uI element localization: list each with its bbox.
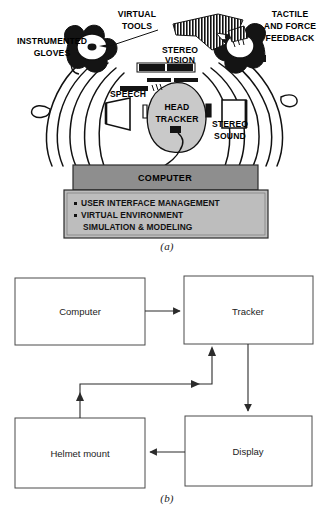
- panel-a-svg: COMPUTER USER INTERFACE MANAGEMENT VIRTU…: [0, 0, 334, 258]
- panel-a-caption: (a): [0, 240, 334, 252]
- block-helmet-mount[interactable]: Helmet mount: [15, 418, 145, 488]
- callout-line-stereo: STEREO: [162, 45, 198, 55]
- functions-item-2: SIMULATION & MODELING: [83, 222, 192, 232]
- callout-virtual-tools: VIRTUAL TOOLS: [118, 9, 156, 31]
- functions-item-label-0: USER INTERFACE MANAGEMENT: [81, 198, 221, 208]
- callout-line-vision: VISION: [165, 55, 195, 65]
- block-computer-label: Computer: [59, 306, 101, 317]
- edge-arrowhead-helmet-mount: [76, 392, 84, 401]
- figure-root: COMPUTER USER INTERFACE MANAGEMENT VIRTU…: [0, 0, 334, 515]
- callout-line-tracker: TRACKER: [155, 114, 199, 124]
- block-display[interactable]: Display: [185, 416, 312, 486]
- edge-arrowhead-tracker-bottom: [208, 346, 216, 356]
- callout-tactile-and-force-feedback: TACTILE AND FORCE FEEDBACK: [264, 9, 317, 43]
- callout-line-head: HEAD: [165, 102, 190, 112]
- functions-item-1: VIRTUAL ENVIRONMENT: [74, 210, 184, 220]
- callout-line-stereo-2: STEREO: [212, 119, 248, 129]
- callout-line-virtual: VIRTUAL: [118, 9, 156, 19]
- functions-box: USER INTERFACE MANAGEMENT VIRTUAL ENVIRO…: [64, 190, 268, 238]
- head-tracker-icon: [143, 83, 211, 166]
- edge-arrowhead-mid-right: [191, 380, 200, 388]
- callout-stereo-vision: STEREO VISION: [162, 45, 198, 65]
- callout-line-instrumented: INSTRUMENTED: [17, 36, 87, 46]
- instrumented-glove-left-icon: [65, 25, 117, 74]
- computer-bar-label: COMPUTER: [138, 173, 192, 183]
- panel-a-vr-system-diagram: COMPUTER USER INTERFACE MANAGEMENT VIRTU…: [0, 0, 334, 258]
- callout-line-and-force: AND FORCE: [264, 21, 317, 31]
- panel-b-caption: (b): [0, 492, 334, 504]
- stereo-speaker-left-icon: [106, 98, 130, 130]
- callout-line-feedback: FEEDBACK: [266, 33, 316, 43]
- block-computer[interactable]: Computer: [15, 278, 145, 345]
- block-display-label: Display: [232, 446, 263, 457]
- callout-line-sound: SOUND: [214, 131, 246, 141]
- computer-bar: COMPUTER: [73, 165, 258, 190]
- functions-item-label-2: SIMULATION & MODELING: [83, 222, 192, 232]
- panel-b-block-diagram: Computer Tracker Helmet mount Display: [0, 258, 334, 515]
- block-helmet-mount-label: Helmet mount: [50, 448, 109, 459]
- stereo-vision-display-icon: [137, 63, 198, 82]
- functions-item-0: USER INTERFACE MANAGEMENT: [74, 198, 221, 208]
- block-tracker-label: Tracker: [232, 306, 264, 317]
- bullet-marker-1: [74, 214, 77, 217]
- callout-speech: SPEECH: [110, 89, 146, 99]
- block-tracker[interactable]: Tracker: [184, 276, 313, 344]
- callout-line-gloves: GLOVES: [34, 48, 71, 58]
- bullet-marker-0: [74, 202, 77, 205]
- panel-b-svg: Computer Tracker Helmet mount Display: [0, 258, 334, 515]
- callout-line-tools: TOOLS: [122, 21, 152, 31]
- callout-line-tactile: TACTILE: [272, 9, 309, 19]
- functions-item-label-1: VIRTUAL ENVIRONMENT: [81, 210, 184, 220]
